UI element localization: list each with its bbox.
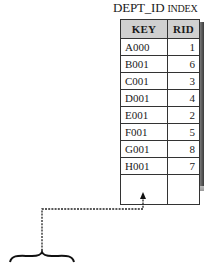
dashed-arrow-line: [42, 198, 143, 254]
arrow-head-icon: [140, 192, 146, 199]
dashed-connector: [0, 0, 209, 272]
curly-brace-icon: [10, 252, 74, 262]
